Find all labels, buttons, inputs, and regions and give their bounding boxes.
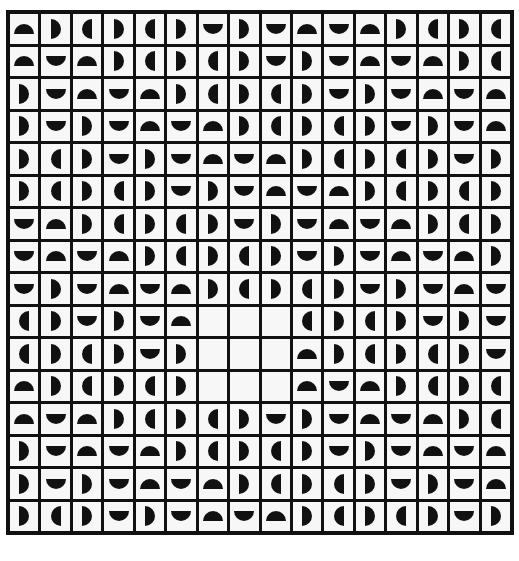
tile-cell[interactable] <box>450 112 478 142</box>
tile-cell[interactable] <box>450 307 478 337</box>
tile-cell[interactable] <box>41 404 69 434</box>
tile-cell[interactable] <box>419 79 447 109</box>
tile-cell[interactable] <box>167 274 195 304</box>
tile-cell[interactable] <box>387 404 415 434</box>
tile-cell[interactable] <box>387 372 415 402</box>
tile-cell[interactable] <box>262 79 290 109</box>
tile-cell[interactable] <box>230 437 258 467</box>
tile-cell[interactable] <box>10 242 38 272</box>
tile-cell[interactable] <box>356 14 384 44</box>
tile-cell[interactable] <box>10 469 38 499</box>
tile-cell[interactable] <box>104 339 132 369</box>
tile-cell[interactable] <box>482 112 510 142</box>
tile-cell[interactable] <box>136 372 164 402</box>
tile-cell[interactable] <box>10 209 38 239</box>
tile-cell[interactable] <box>136 177 164 207</box>
tile-cell[interactable] <box>324 469 352 499</box>
tile-cell[interactable] <box>73 339 101 369</box>
tile-cell[interactable] <box>73 469 101 499</box>
tile-cell[interactable] <box>10 307 38 337</box>
tile-cell[interactable] <box>104 209 132 239</box>
tile-cell[interactable] <box>450 144 478 174</box>
tile-cell[interactable] <box>419 437 447 467</box>
tile-cell[interactable] <box>450 437 478 467</box>
tile-cell[interactable] <box>387 469 415 499</box>
tile-cell[interactable] <box>419 404 447 434</box>
tile-cell[interactable] <box>293 339 321 369</box>
tile-cell[interactable] <box>230 274 258 304</box>
tile-cell[interactable] <box>419 372 447 402</box>
tile-cell[interactable] <box>293 112 321 142</box>
tile-cell[interactable] <box>10 47 38 77</box>
tile-cell[interactable] <box>167 47 195 77</box>
tile-cell[interactable] <box>387 14 415 44</box>
tile-cell[interactable] <box>104 502 132 532</box>
tile-cell[interactable] <box>356 372 384 402</box>
tile-cell[interactable] <box>450 177 478 207</box>
tile-cell[interactable] <box>199 177 227 207</box>
tile-cell[interactable] <box>10 372 38 402</box>
tile-cell[interactable] <box>41 339 69 369</box>
tile-cell[interactable] <box>199 47 227 77</box>
tile-cell[interactable] <box>41 47 69 77</box>
tile-cell[interactable] <box>41 307 69 337</box>
tile-cell[interactable] <box>262 274 290 304</box>
tile-cell[interactable] <box>419 144 447 174</box>
tile-cell[interactable] <box>199 144 227 174</box>
tile-cell[interactable] <box>450 404 478 434</box>
tile-cell[interactable] <box>262 404 290 434</box>
tile-cell[interactable] <box>324 112 352 142</box>
tile-cell[interactable] <box>482 502 510 532</box>
empty-cell[interactable] <box>230 372 258 402</box>
tile-cell[interactable] <box>293 502 321 532</box>
tile-cell[interactable] <box>356 47 384 77</box>
tile-cell[interactable] <box>324 144 352 174</box>
tile-cell[interactable] <box>136 144 164 174</box>
tile-cell[interactable] <box>41 274 69 304</box>
tile-cell[interactable] <box>419 14 447 44</box>
tile-cell[interactable] <box>230 209 258 239</box>
tile-cell[interactable] <box>73 307 101 337</box>
tile-cell[interactable] <box>293 307 321 337</box>
tile-cell[interactable] <box>419 47 447 77</box>
tile-cell[interactable] <box>482 307 510 337</box>
tile-cell[interactable] <box>41 14 69 44</box>
tile-cell[interactable] <box>450 274 478 304</box>
tile-cell[interactable] <box>387 307 415 337</box>
tile-cell[interactable] <box>230 404 258 434</box>
tile-cell[interactable] <box>482 79 510 109</box>
tile-cell[interactable] <box>104 372 132 402</box>
tile-cell[interactable] <box>324 274 352 304</box>
tile-cell[interactable] <box>199 274 227 304</box>
tile-cell[interactable] <box>482 469 510 499</box>
tile-cell[interactable] <box>419 242 447 272</box>
tile-cell[interactable] <box>73 79 101 109</box>
tile-cell[interactable] <box>387 242 415 272</box>
tile-cell[interactable] <box>293 242 321 272</box>
tile-cell[interactable] <box>73 144 101 174</box>
tile-cell[interactable] <box>167 14 195 44</box>
tile-cell[interactable] <box>482 177 510 207</box>
tile-cell[interactable] <box>387 177 415 207</box>
tile-cell[interactable] <box>450 47 478 77</box>
tile-cell[interactable] <box>387 209 415 239</box>
tile-cell[interactable] <box>356 404 384 434</box>
tile-cell[interactable] <box>450 469 478 499</box>
tile-cell[interactable] <box>324 404 352 434</box>
tile-cell[interactable] <box>419 112 447 142</box>
tile-cell[interactable] <box>293 469 321 499</box>
tile-cell[interactable] <box>73 14 101 44</box>
tile-cell[interactable] <box>293 437 321 467</box>
tile-cell[interactable] <box>104 14 132 44</box>
tile-cell[interactable] <box>73 274 101 304</box>
tile-cell[interactable] <box>199 79 227 109</box>
tile-cell[interactable] <box>419 209 447 239</box>
tile-cell[interactable] <box>356 209 384 239</box>
tile-cell[interactable] <box>482 274 510 304</box>
tile-cell[interactable] <box>262 112 290 142</box>
tile-cell[interactable] <box>262 469 290 499</box>
tile-cell[interactable] <box>199 404 227 434</box>
tile-cell[interactable] <box>167 307 195 337</box>
tile-cell[interactable] <box>136 14 164 44</box>
tile-cell[interactable] <box>199 112 227 142</box>
